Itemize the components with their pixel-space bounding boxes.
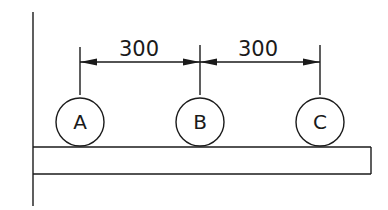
node-c: C (296, 98, 344, 146)
dimension-label-bc: 300 (238, 37, 278, 61)
dimension-diagram: 300 300 A B C (0, 0, 388, 210)
node-label-a: A (73, 110, 87, 134)
dimension-label-ab: 300 (119, 37, 159, 61)
dimension-bc: 300 (200, 37, 320, 66)
beam (33, 147, 371, 174)
arrowhead-left-icon (200, 59, 217, 66)
arrowhead-right-icon (303, 59, 320, 66)
arrowhead-right-icon (183, 59, 200, 66)
arrowhead-left-icon (80, 59, 97, 66)
node-a: A (56, 98, 104, 146)
node-label-c: C (313, 110, 327, 134)
dimension-ab: 300 (80, 37, 200, 66)
node-b: B (176, 98, 224, 146)
node-label-b: B (193, 110, 207, 134)
